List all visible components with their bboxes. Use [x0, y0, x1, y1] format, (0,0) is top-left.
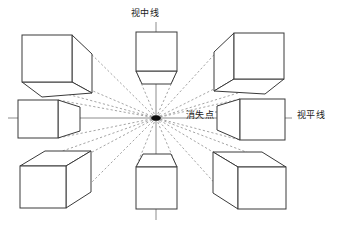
cube-bottom-center-front-face [136, 167, 177, 209]
cube-bottom-left-front-face [20, 166, 66, 208]
cube-top-left-front-face [22, 35, 72, 82]
perspective-canvas [0, 0, 341, 229]
cube-top-center [136, 32, 177, 84]
cube-top-center-bottom-face [136, 71, 177, 84]
center-line-label: 视中线 [131, 8, 159, 19]
cube-bottom-right-front-face [238, 167, 286, 209]
cube-middle-left-front-face [18, 100, 58, 138]
cube-bottom-left [20, 151, 91, 208]
cube-middle-right-left-face [217, 99, 240, 140]
cube-top-left [22, 35, 92, 97]
cube-bottom-right [213, 152, 286, 209]
cube-bottom-center [136, 154, 177, 209]
cube-bottom-center-top-face [136, 154, 177, 167]
cube-top-right [214, 33, 284, 94]
vanishing-point-label: 消失点 [186, 110, 214, 121]
cube-middle-left [18, 100, 80, 138]
perspective-diagram: 视中线 消失点 视平线 [0, 0, 341, 229]
cube-top-right-front-face [234, 33, 284, 79]
cube-middle-left-right-face [58, 100, 80, 138]
horizon-line-label: 视平线 [297, 110, 325, 121]
cube-middle-right-front-face [240, 99, 285, 140]
vanishing-point-dot [152, 115, 161, 120]
cube-middle-right [217, 99, 285, 140]
cube-top-center-front-face [136, 32, 177, 71]
